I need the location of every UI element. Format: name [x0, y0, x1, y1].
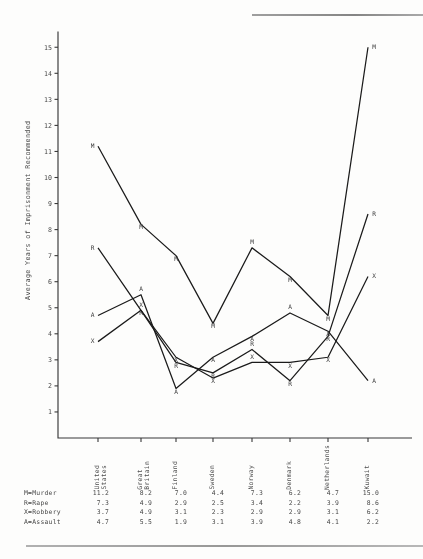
table-cell: 3.9 — [235, 518, 263, 526]
point-marker-M: M — [91, 142, 95, 149]
table-cell: 2.9 — [235, 508, 263, 516]
point-marker-M: M — [288, 276, 292, 283]
x-axis-label-norway: Norway — [247, 465, 254, 490]
y-axis-tick-label: 9 — [48, 200, 52, 208]
y-axis-tick-label: 10 — [44, 174, 52, 182]
table-cell: 3.7 — [81, 508, 109, 516]
table-cell: 15.0 — [351, 489, 379, 497]
table-row: R=Rape7.34.92.92.53.42.23.98.6 — [0, 499, 423, 509]
table-cell: 7.0 — [159, 489, 187, 497]
x-axis-label-finland: Finland — [171, 461, 178, 490]
x-axis-label-denmark: Denmark — [285, 461, 292, 490]
table-cell: 7.3 — [235, 489, 263, 497]
table-cell: 4.9 — [124, 499, 152, 507]
y-axis-tick-label: 6 — [48, 278, 52, 286]
table-row-label: M=Murder — [24, 489, 57, 497]
y-axis-tick-label: 2 — [48, 382, 52, 390]
point-marker-M: M — [372, 43, 376, 50]
point-marker-R: R — [91, 244, 95, 251]
y-axis-tick-label: 13 — [44, 96, 52, 104]
point-marker-X: X — [174, 356, 178, 363]
y-axis-tick-label: 5 — [48, 304, 52, 312]
x-axis-label-netherlands: Netherlands — [323, 445, 330, 490]
table-row-label: A=Assault — [24, 518, 61, 526]
table-cell: 4.9 — [124, 508, 152, 516]
y-axis-title: Average Years of Imprisonment Recommende… — [24, 121, 32, 300]
point-marker-A: A — [91, 311, 95, 318]
point-marker-A: A — [288, 303, 292, 310]
table-cell: 2.2 — [351, 518, 379, 526]
y-axis-tick-label: 1 — [48, 408, 52, 416]
table-cell: 1.9 — [159, 518, 187, 526]
point-marker-A: A — [211, 356, 215, 363]
y-axis-tick-label: 14 — [44, 70, 52, 78]
table-cell: 3.1 — [196, 518, 224, 526]
table-cell: 6.2 — [273, 489, 301, 497]
table-row-label: R=Rape — [24, 499, 49, 507]
table-cell: 3.1 — [311, 508, 339, 516]
table-cell: 8.6 — [351, 499, 379, 507]
table-cell: 2.2 — [273, 499, 301, 507]
table-cell: 2.9 — [273, 508, 301, 516]
y-axis-tick-label: 4 — [48, 330, 52, 338]
y-axis-tick-label: 15 — [44, 44, 52, 52]
point-marker-X: X — [91, 337, 95, 344]
point-marker-M: M — [139, 223, 143, 230]
x-axis-label-sweden: Sweden — [208, 465, 215, 490]
table-cell: 2.5 — [196, 499, 224, 507]
line-chart: 123456789101112131415Average Years of Im… — [0, 0, 423, 460]
point-marker-X: X — [372, 272, 376, 279]
point-marker-X: X — [326, 356, 330, 363]
y-axis-tick-label: 3 — [48, 356, 52, 364]
point-marker-A: A — [174, 388, 178, 395]
table-cell: 3.9 — [311, 499, 339, 507]
point-marker-R: R — [288, 380, 292, 387]
point-marker-M: M — [211, 322, 215, 329]
x-axis-label-united-states: United States — [93, 465, 108, 490]
table-cell: 7.3 — [81, 499, 109, 507]
table-cell: 3.1 — [159, 508, 187, 516]
point-marker-X: X — [211, 377, 215, 384]
point-marker-A: A — [326, 330, 330, 337]
y-axis-tick-label: 11 — [44, 148, 52, 156]
table-cell: 4.4 — [196, 489, 224, 497]
table-cell: 6.2 — [351, 508, 379, 516]
table-row: M=Murder11.28.27.04.47.36.24.715.0 — [0, 489, 423, 499]
table-cell: 8.2 — [124, 489, 152, 497]
x-axis-label-kuwait: Kuwait — [363, 465, 370, 490]
table-cell: 11.2 — [81, 489, 109, 497]
y-axis-tick-label: 7 — [48, 252, 52, 260]
point-marker-M: M — [250, 238, 254, 245]
table-row: X=Robbery3.74.93.12.32.92.93.16.2 — [0, 508, 423, 518]
series-line-murder — [98, 47, 368, 323]
point-marker-R: R — [372, 210, 376, 217]
table-cell: 2.3 — [196, 508, 224, 516]
point-marker-X: X — [250, 353, 254, 360]
table-cell: 5.5 — [124, 518, 152, 526]
point-marker-M: M — [326, 315, 330, 322]
x-axis-label-great-britain: Great Britain — [136, 461, 151, 490]
y-axis-tick-label: 12 — [44, 122, 52, 130]
table-row: A=Assault4.75.51.93.13.94.84.12.2 — [0, 518, 423, 528]
chart-canvas: 123456789101112131415Average Years of Im… — [0, 0, 423, 460]
point-marker-X: X — [139, 301, 143, 308]
table-cell: 4.7 — [81, 518, 109, 526]
table-cell: 3.4 — [235, 499, 263, 507]
table-cell: 2.9 — [159, 499, 187, 507]
point-marker-M: M — [174, 255, 178, 262]
point-marker-A: A — [139, 285, 143, 292]
bottom-scan-rule — [26, 545, 423, 547]
point-marker-A: A — [250, 335, 254, 342]
table-cell: 4.7 — [311, 489, 339, 497]
table-cell: 4.1 — [311, 518, 339, 526]
table-row-label: X=Robbery — [24, 508, 61, 516]
table-cell: 4.8 — [273, 518, 301, 526]
y-axis-tick-label: 8 — [48, 226, 52, 234]
chart-axes — [58, 32, 412, 438]
point-marker-A: A — [372, 377, 376, 384]
x-axis-category-labels: United StatesGreat BritainFinlandSwedenN… — [0, 444, 423, 490]
scanned-figure-page: 123456789101112131415Average Years of Im… — [0, 0, 423, 559]
point-marker-X: X — [288, 362, 292, 369]
data-table: M=Murder11.28.27.04.47.36.24.715.0R=Rape… — [0, 489, 423, 527]
